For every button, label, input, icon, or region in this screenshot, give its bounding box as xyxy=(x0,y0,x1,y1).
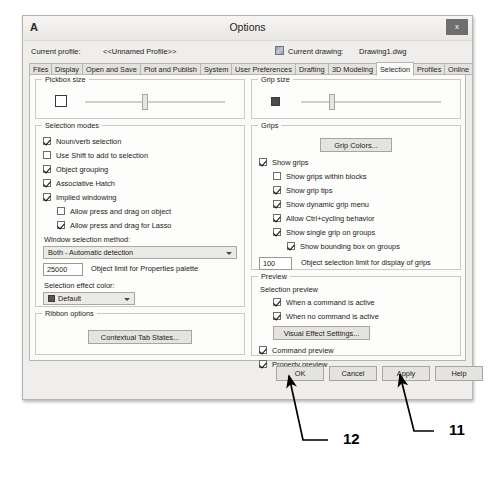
tab-selection[interactable]: Selection xyxy=(376,62,414,76)
annotation-label-12: 12 xyxy=(343,430,360,447)
annotation-label-11: 11 xyxy=(449,421,465,438)
annotation-arrows xyxy=(0,0,501,481)
